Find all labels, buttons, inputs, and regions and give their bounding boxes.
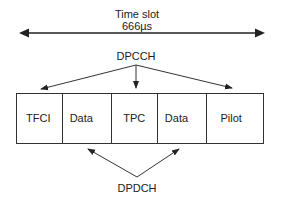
dpcch-arrows [41, 65, 232, 89]
slot-frame: TFCI Data TPC Data Pilot [16, 93, 264, 144]
field-tfci: TFCI [17, 94, 63, 143]
field-tpc: TPC [112, 94, 158, 143]
field-data-2: Data [158, 94, 208, 143]
timeslot-title: Time slot [115, 8, 159, 20]
field-label: TPC [123, 112, 145, 124]
field-pilot: Pilot [207, 94, 263, 143]
timeslot-duration: 666µs [122, 20, 152, 32]
field-label: TFCI [26, 112, 50, 124]
dpcch-label: DPCCH [116, 50, 155, 62]
field-label: Data [70, 112, 93, 124]
field-label: Data [165, 112, 188, 124]
field-label: Pilot [220, 112, 241, 124]
field-data-1: Data [63, 94, 113, 143]
dpdch-arrows [88, 149, 179, 177]
dpdch-label: DPDCH [117, 182, 156, 194]
